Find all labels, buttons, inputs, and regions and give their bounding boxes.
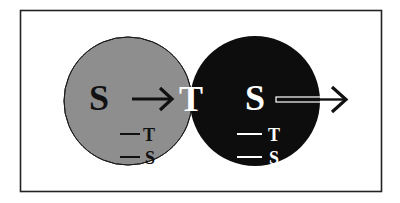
right-sub-item-t: T <box>268 125 280 145</box>
left-sub-item-s: S <box>145 148 155 168</box>
left-sub-item-t: T <box>143 125 155 145</box>
left-main-label: S <box>89 78 109 118</box>
venn-diagram: S T T S S T S <box>0 0 400 203</box>
right-main-label: S <box>245 78 265 118</box>
right-sub-item-s: S <box>269 148 279 168</box>
left-circle <box>64 37 192 165</box>
intersection-label: T <box>179 79 203 119</box>
